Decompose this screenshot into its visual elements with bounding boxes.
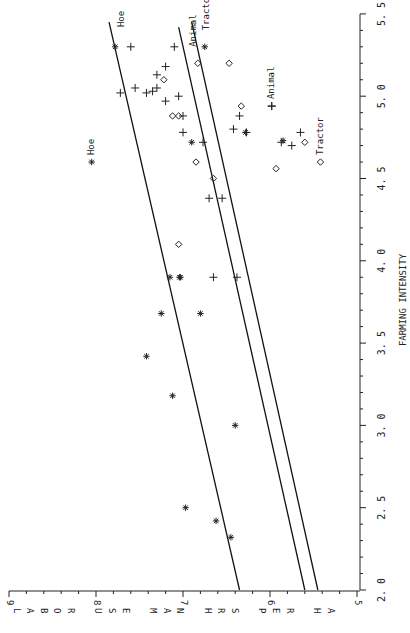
- y-axis-label-char: R: [66, 608, 76, 614]
- diamond-marker: [175, 241, 181, 247]
- asterisk-marker: [167, 274, 173, 280]
- plus-marker: [162, 97, 170, 105]
- plus-marker: [209, 273, 217, 281]
- y-axis-label-char: S: [107, 608, 117, 613]
- plus-marker: [127, 43, 135, 51]
- plus-marker: [205, 194, 213, 202]
- y-axis-label-char: A: [162, 608, 172, 614]
- legend-label-animal: Animal: [266, 67, 276, 100]
- fit-line-hoe: [109, 22, 240, 590]
- line-label-tractor: Tractor: [201, 0, 211, 30]
- y-tick-label: 8: [92, 600, 102, 605]
- y-tick-label: 9: [5, 600, 15, 605]
- data-points: [88, 43, 323, 541]
- legend-label-hoe: Hoe: [86, 139, 96, 155]
- x-tick-label: 3. 0: [376, 413, 387, 437]
- y-axis-label-char: B: [39, 608, 49, 613]
- diamond-marker: [161, 77, 167, 83]
- asterisk-marker: [176, 274, 182, 280]
- diamond-marker: [193, 159, 199, 165]
- y-axis-label-char: N: [175, 608, 185, 613]
- y-axis-label-char: O: [52, 608, 62, 613]
- plus-marker: [243, 128, 251, 136]
- plus-marker: [131, 84, 139, 92]
- y-axis-label-char: R: [216, 608, 226, 614]
- legend-label-tractor: Tractor: [315, 117, 325, 156]
- asterisk-marker: [169, 393, 175, 399]
- y-axis-label-char: A: [25, 608, 35, 614]
- diamond-marker: [238, 103, 244, 109]
- x-tick-label: 4. 5: [376, 166, 387, 190]
- y-axis-label-char: P: [257, 608, 267, 614]
- plus-marker: [162, 63, 170, 71]
- line-label-hoe: Hoe: [116, 11, 126, 27]
- plus-marker: [236, 112, 244, 120]
- x-axis-label: FARMING INTENSITY: [398, 253, 408, 346]
- diamond-marker: [317, 159, 323, 165]
- y-tick-label: 7: [179, 600, 189, 605]
- y-axis-label-char: M: [148, 608, 158, 614]
- y-axis-label-char: A: [326, 608, 336, 614]
- x-tick-label: 2. 0: [376, 578, 387, 602]
- diamond-marker: [302, 139, 308, 145]
- y-axis-label-char: E: [271, 608, 281, 613]
- plus-marker: [218, 194, 226, 202]
- fit-line-animal: [179, 27, 305, 590]
- plus-marker: [153, 71, 161, 79]
- asterisk-marker: [112, 44, 118, 50]
- diamond-marker: [226, 60, 232, 66]
- asterisk-marker: [182, 505, 188, 511]
- plus-marker: [142, 89, 150, 97]
- asterisk-marker: [143, 353, 149, 359]
- y-tick-label: 6: [266, 600, 276, 605]
- asterisk-marker: [189, 139, 195, 145]
- plus-marker: [268, 102, 276, 110]
- y-tick-label: 5: [353, 600, 363, 605]
- y-axis-label-char: S: [230, 608, 240, 613]
- plus-marker: [116, 89, 124, 97]
- asterisk-marker: [232, 422, 238, 428]
- y-axis-label-char: L: [12, 608, 22, 613]
- y-axis-label-char: E: [121, 608, 131, 613]
- asterisk-marker: [228, 534, 234, 540]
- regression-lines: [109, 22, 318, 590]
- y-axis-label-char: U: [93, 608, 103, 613]
- plus-marker: [170, 43, 178, 51]
- y-axis-label-char: H: [312, 608, 322, 613]
- y-axis-label-char: H: [203, 608, 213, 613]
- line-label-animal: Animal: [188, 14, 198, 47]
- plus-marker: [175, 92, 183, 100]
- plus-marker: [179, 128, 187, 136]
- asterisk-marker: [158, 310, 164, 316]
- asterisk-marker: [202, 44, 208, 50]
- plus-marker: [179, 112, 187, 120]
- asterisk-marker: [213, 518, 219, 524]
- diamond-marker: [273, 165, 279, 171]
- x-tick-label: 4. 0: [376, 249, 387, 273]
- asterisk-marker: [88, 159, 94, 165]
- x-tick-label: 2. 5: [376, 496, 387, 520]
- plus-marker: [288, 142, 296, 150]
- scatter-chart: 56789LABORUSEMANHRSPERHA2. 02. 53. 03. 5…: [0, 0, 410, 633]
- axes: 56789LABORUSEMANHRSPERHA2. 02. 53. 03. 5…: [5, 2, 408, 614]
- y-axis-label-char: R: [285, 608, 295, 614]
- x-tick-label: 3. 5: [376, 331, 387, 355]
- fit-line-tractor: [192, 22, 318, 590]
- plus-marker: [199, 138, 207, 146]
- plus-marker: [229, 125, 237, 133]
- x-tick-label: 5. 0: [376, 84, 387, 108]
- plus-marker: [296, 128, 304, 136]
- asterisk-marker: [197, 310, 203, 316]
- x-tick-label: 5. 5: [376, 2, 387, 26]
